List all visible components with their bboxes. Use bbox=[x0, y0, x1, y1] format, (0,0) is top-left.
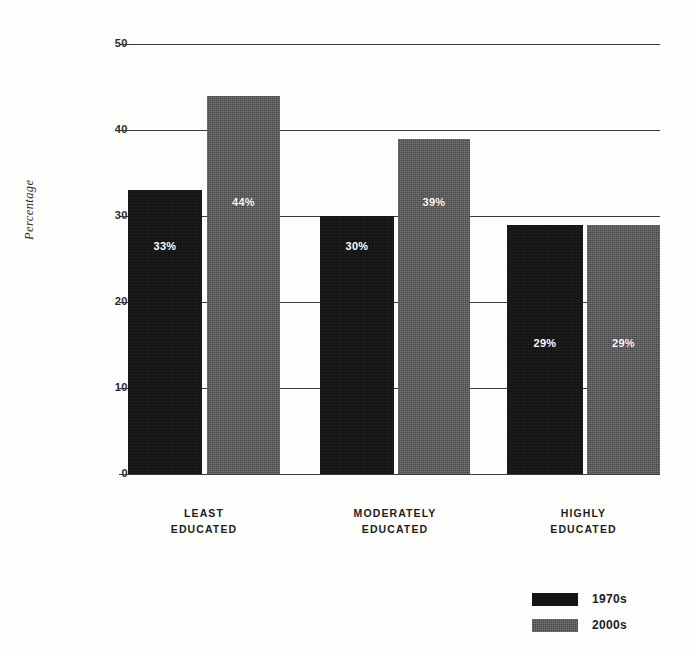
x-axis-category-least-educated: LEAST EDUCATED bbox=[128, 505, 280, 537]
bar-value-label: 29% bbox=[587, 337, 660, 349]
legend-label: 1970s bbox=[592, 592, 627, 606]
y-axis-tick-mark bbox=[119, 130, 128, 131]
category-label-line1: LEAST bbox=[128, 505, 280, 521]
y-axis-title: Percentage bbox=[22, 130, 42, 240]
chart-legend: 1970s 2000s bbox=[532, 588, 682, 640]
category-label-line2: EDUCATED bbox=[507, 521, 660, 537]
category-label-line2: EDUCATED bbox=[320, 521, 470, 537]
category-label-line1: HIGHLY bbox=[507, 505, 660, 521]
legend-item-1970s[interactable]: 1970s bbox=[532, 588, 682, 610]
bar-2000s-highly-educated[interactable]: 29% bbox=[587, 225, 660, 474]
gridline-50 bbox=[128, 44, 660, 45]
y-axis-tick-label: 50 bbox=[72, 37, 128, 49]
y-axis-tick-group: 50 40 30 20 10 0 bbox=[62, 44, 128, 474]
legend-swatch-icon bbox=[532, 619, 578, 632]
category-label-line2: EDUCATED bbox=[128, 521, 280, 537]
bar-2000s-moderately-educated[interactable]: 39% bbox=[398, 139, 470, 474]
bar-1970s-moderately-educated[interactable]: 30% bbox=[320, 216, 394, 474]
x-axis-category-highly-educated: HIGHLY EDUCATED bbox=[507, 505, 660, 537]
category-label-line1: MODERATELY bbox=[320, 505, 470, 521]
bar-1970s-highly-educated[interactable]: 29% bbox=[507, 225, 583, 474]
legend-swatch-icon bbox=[532, 593, 578, 606]
plot-area: 33% 44% 30% 39% 29% 29% bbox=[128, 44, 660, 474]
x-axis-category-moderately-educated: MODERATELY EDUCATED bbox=[320, 505, 470, 537]
axis-baseline bbox=[128, 474, 660, 475]
bar-value-label: 30% bbox=[320, 240, 394, 252]
y-axis-tick-label: 40 bbox=[72, 123, 128, 135]
bar-chart: Percentage 50 40 30 20 10 0 33% 44% bbox=[0, 0, 694, 655]
y-axis-tick-label: 10 bbox=[72, 381, 128, 393]
y-axis-tick-mark bbox=[119, 474, 128, 475]
y-axis-tick-label: 30 bbox=[72, 209, 128, 221]
bar-2000s-least-educated[interactable]: 44% bbox=[207, 96, 280, 474]
bar-value-label: 33% bbox=[128, 240, 202, 252]
bar-value-label: 29% bbox=[507, 337, 583, 349]
bar-1970s-least-educated[interactable]: 33% bbox=[128, 190, 202, 474]
legend-item-2000s[interactable]: 2000s bbox=[532, 614, 682, 636]
bar-value-label: 44% bbox=[207, 196, 280, 208]
y-axis-tick-mark bbox=[119, 302, 128, 303]
y-axis-tick-label: 0 bbox=[72, 467, 128, 479]
y-axis-tick-mark bbox=[119, 44, 128, 45]
legend-label: 2000s bbox=[592, 618, 627, 632]
y-axis-tick-mark bbox=[119, 388, 128, 389]
y-axis-tick-label: 20 bbox=[72, 295, 128, 307]
bar-value-label: 39% bbox=[398, 196, 470, 208]
y-axis-tick-mark bbox=[119, 216, 128, 217]
